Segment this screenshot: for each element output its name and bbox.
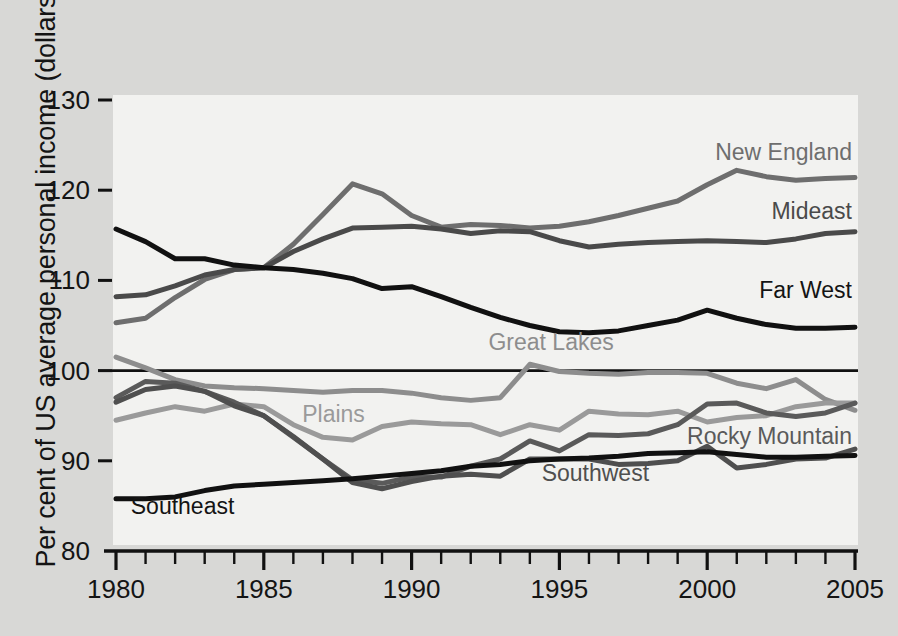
chart-figure: Per cent of US average personal income (… bbox=[0, 0, 898, 636]
y-tick-label: 90 bbox=[61, 446, 90, 476]
line-chart-plot: 1301201101009080198019851990199520002005… bbox=[0, 0, 898, 636]
y-tick-label: 80 bbox=[61, 536, 90, 566]
series-label-plains: Plains bbox=[302, 401, 365, 427]
series-label-far-west: Far West bbox=[759, 277, 852, 303]
series-label-great-lakes: Great Lakes bbox=[488, 329, 613, 355]
series-label-southwest: Southwest bbox=[542, 460, 650, 486]
y-tick-label: 110 bbox=[49, 265, 90, 295]
y-tick-label: 100 bbox=[47, 356, 90, 386]
series-label-new-england: New England bbox=[715, 139, 852, 165]
y-tick-label: 120 bbox=[47, 175, 90, 205]
series-label-southeast: Southeast bbox=[131, 493, 235, 519]
x-tick-label: 2000 bbox=[678, 574, 736, 604]
x-tick-label: 1980 bbox=[87, 574, 145, 604]
y-tick-label: 130 bbox=[47, 85, 90, 115]
x-tick-label: 1990 bbox=[383, 574, 441, 604]
x-tick-label: 1985 bbox=[235, 574, 293, 604]
x-tick-label: 2005 bbox=[826, 574, 884, 604]
x-tick-label: 1995 bbox=[530, 574, 588, 604]
series-label-mideast: Mideast bbox=[771, 198, 852, 224]
series-label-rocky-mountain: Rocky Mountain bbox=[687, 423, 852, 449]
